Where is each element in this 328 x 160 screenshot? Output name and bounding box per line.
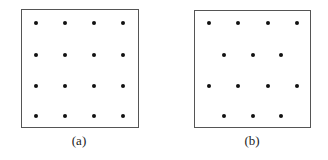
lattice-dot [63, 53, 67, 57]
lattice-dot [121, 84, 125, 88]
lattice-dot [207, 84, 211, 88]
lattice-dot [236, 21, 240, 25]
lattice-dot [251, 114, 255, 118]
lattice-dot [92, 53, 96, 57]
lattice-dot [279, 114, 283, 118]
lattice-dot [266, 21, 270, 25]
lattice-dot [207, 21, 211, 25]
lattice-dot [34, 114, 38, 118]
lattice-dot [251, 53, 255, 57]
lattice-dot [121, 21, 125, 25]
panel-a-square-grid [21, 9, 139, 128]
lattice-dot [63, 114, 67, 118]
caption-b: (b) [232, 134, 272, 148]
lattice-dot [34, 84, 38, 88]
lattice-dot [295, 84, 299, 88]
lattice-dot [92, 84, 96, 88]
lattice-dot [295, 21, 299, 25]
lattice-dot [279, 53, 283, 57]
lattice-dot [121, 53, 125, 57]
caption-a: (a) [59, 134, 99, 148]
lattice-dot [63, 84, 67, 88]
lattice-dot [92, 21, 96, 25]
lattice-dot [34, 53, 38, 57]
lattice-dot [222, 114, 226, 118]
lattice-dot [63, 21, 67, 25]
lattice-dot [121, 114, 125, 118]
lattice-dot [34, 21, 38, 25]
panel-b-staggered-grid [194, 10, 311, 128]
lattice-dot [222, 53, 226, 57]
lattice-dot [236, 84, 240, 88]
lattice-dot [266, 84, 270, 88]
lattice-dot [92, 114, 96, 118]
